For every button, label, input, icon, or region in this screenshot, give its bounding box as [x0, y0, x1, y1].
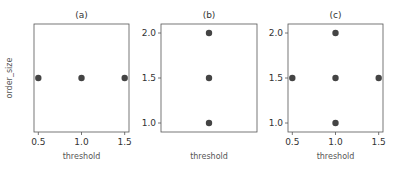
subplot-a: (a)0.51.01.5thresholdorder_size: [5, 10, 132, 161]
subplot-title: (b): [203, 10, 216, 20]
subplot-title: (c): [330, 10, 342, 20]
y-tick-label: 2.0: [142, 28, 157, 38]
y-tick-label: 1.5: [269, 73, 283, 83]
y-axis-label: order_size: [5, 58, 14, 99]
y-tick-label: 1.0: [269, 118, 284, 128]
data-point: [375, 75, 381, 81]
x-tick-label: 1.0: [328, 137, 343, 147]
x-tick-label: 1.5: [372, 137, 386, 147]
y-tick-label: 2.0: [269, 28, 284, 38]
data-point: [35, 75, 41, 81]
x-tick-label: 1.5: [118, 137, 132, 147]
y-tick-label: 1.5: [142, 73, 156, 83]
data-point: [78, 75, 84, 81]
x-axis-label: threshold: [190, 152, 228, 161]
x-axis-label: threshold: [317, 152, 355, 161]
data-point: [332, 30, 338, 36]
data-point: [206, 120, 212, 126]
x-tick-label: 1.0: [74, 137, 89, 147]
x-tick-label: 0.5: [31, 137, 45, 147]
x-tick-label: 0.5: [285, 137, 299, 147]
data-point: [121, 75, 127, 81]
subplot-c: (c)0.51.01.51.01.52.0threshold: [269, 10, 386, 161]
data-point: [289, 75, 295, 81]
x-axis-label: threshold: [63, 152, 101, 161]
figure: (a)0.51.01.5thresholdorder_size(b)1.01.5…: [0, 0, 409, 172]
subplot-b: (b)1.01.52.0threshold: [142, 10, 257, 161]
subplot-title: (a): [75, 10, 88, 20]
y-tick-label: 1.0: [142, 118, 157, 128]
data-point: [332, 120, 338, 126]
data-point: [206, 75, 212, 81]
data-point: [332, 75, 338, 81]
data-point: [206, 30, 212, 36]
